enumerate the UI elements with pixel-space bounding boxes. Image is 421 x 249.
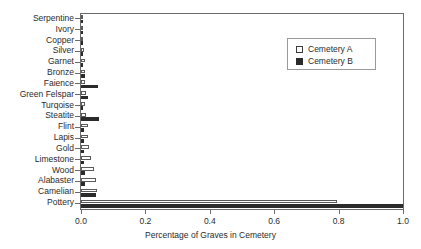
bar-cemetery-b (81, 106, 83, 110)
y-axis-label-lapis: Lapis (54, 133, 74, 142)
bar-cemetery-b (81, 85, 98, 89)
bar-cemetery-a (81, 167, 94, 171)
y-axis-label-turqoise: Turqoise (41, 101, 74, 110)
x-axis-tick-label: 0.6 (254, 216, 294, 226)
y-axis-label-pottery: Pottery (47, 198, 74, 207)
bar-cemetery-a (81, 156, 91, 160)
x-axis-tick (81, 210, 82, 214)
bar-cemetery-b (81, 139, 84, 143)
bar-cemetery-b (81, 117, 99, 121)
bar-cemetery-b (81, 182, 85, 186)
legend-swatch-open-square-icon (296, 46, 303, 53)
bar-cemetery-a (81, 80, 85, 84)
bar-cemetery-b (81, 204, 403, 208)
y-axis-label-garnet: Garnet (48, 57, 74, 66)
bar-cemetery-b (81, 193, 96, 197)
x-axis-tick-label: 0.0 (61, 216, 101, 226)
x-axis-tick (339, 210, 340, 214)
bar-cemetery-a (81, 37, 83, 41)
legend-label-cemetery-a: Cemetery A (308, 45, 352, 54)
bar-cemetery-b (81, 128, 84, 132)
y-axis-label-wood: Wood (52, 166, 74, 175)
bar-cemetery-b (81, 96, 88, 100)
y-axis-label-bronze: Bronze (47, 68, 74, 77)
bar-cemetery-a (81, 189, 97, 193)
bar-cemetery-a (81, 200, 337, 204)
bar-cemetery-a (81, 113, 86, 117)
bar-cemetery-b (81, 74, 85, 78)
legend-entry-cemetery-a: Cemetery A (296, 43, 375, 55)
bar-cemetery-a (81, 124, 88, 128)
x-axis-tick (274, 210, 275, 214)
y-axis-label-camelian: Camelian (38, 187, 74, 196)
bar-cemetery-b (81, 150, 84, 154)
x-axis-title: Percentage of Graves in Cemetery (0, 230, 421, 240)
bar-cemetery-b (81, 63, 83, 67)
y-axis-label-steatite: Steatite (45, 111, 74, 120)
y-axis-label-faience: Faience (44, 79, 74, 88)
chart-legend: Cemetery A Cemetery B (287, 38, 376, 70)
x-axis-tick (403, 210, 404, 214)
bar-cemetery-b (81, 41, 83, 45)
y-axis-label-alabaster: Alabaster (38, 176, 74, 185)
bar-cemetery-a (81, 15, 83, 19)
legend-label-cemetery-b: Cemetery B (308, 57, 353, 66)
y-axis-label-copper: Copper (46, 36, 74, 45)
bar-cemetery-a (81, 145, 89, 149)
bar-cemetery-a (81, 70, 85, 74)
bar-cemetery-a (81, 59, 85, 63)
y-axis-label-flint: Flint (58, 122, 74, 131)
bar-cemetery-b (81, 31, 83, 35)
y-axis-label-green-felspar: Green Felspar (20, 90, 74, 99)
bar-cemetery-b (81, 20, 83, 24)
y-axis-label-serpentine: Serpentine (33, 14, 74, 23)
legend-swatch-filled-square-icon (296, 58, 303, 65)
bar-cemetery-b (81, 171, 85, 175)
y-axis-label-limestone: Limestone (35, 155, 74, 164)
x-axis-tick-label: 1.0 (383, 216, 421, 226)
y-axis-label-ivory: Ivory (56, 25, 74, 34)
x-axis-tick (210, 210, 211, 214)
bar-cemetery-b (81, 161, 84, 165)
bar-cemetery-a (81, 48, 84, 52)
bar-cemetery-a (81, 91, 86, 95)
x-axis-tick (145, 210, 146, 214)
bar-chart-figure: SerpentineIvoryCopperSilverGarnetBronzeF… (0, 0, 421, 249)
bar-cemetery-b (81, 52, 83, 56)
x-axis-tick-label: 0.2 (125, 216, 165, 226)
bar-cemetery-a (81, 26, 83, 30)
x-axis-tick-label: 0.8 (319, 216, 359, 226)
y-axis-label-gold: Gold (56, 144, 74, 153)
y-axis-label-silver: Silver (53, 46, 74, 55)
bar-cemetery-a (81, 178, 96, 182)
x-axis-tick-label: 0.4 (190, 216, 230, 226)
bar-cemetery-a (81, 135, 88, 139)
bar-cemetery-a (81, 102, 85, 106)
legend-entry-cemetery-b: Cemetery B (296, 55, 375, 67)
